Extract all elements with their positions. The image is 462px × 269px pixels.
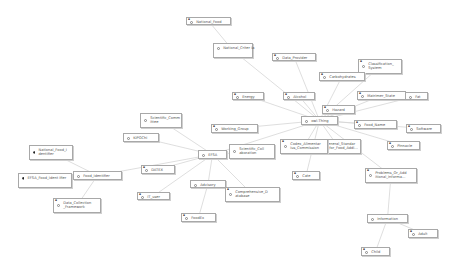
expand-marker-icon: ▪	[410, 230, 412, 233]
class-circle-icon	[190, 21, 193, 24]
expand-marker-icon: ▪	[363, 248, 365, 251]
ontology-graph-canvas[interactable]: ▪ National_Food National_Criter ia ▪ Dat…	[0, 0, 462, 269]
expand-marker-icon: ▪	[213, 125, 215, 128]
expand-marker-icon: ▪	[359, 92, 361, 95]
node-national-food[interactable]: ▪ National_Food	[186, 17, 231, 25]
node-national-criteria[interactable]: National_Criter ia	[213, 43, 253, 58]
node-label: Codex_Alimentar ius_Commission	[290, 142, 330, 151]
class-circle-icon	[323, 76, 326, 79]
node-software[interactable]: ▪ Software	[406, 124, 441, 133]
node-data-provider[interactable]: ▪ Data_Provider	[272, 53, 316, 61]
node-fooddex[interactable]: ▪ FoodEx	[181, 213, 216, 222]
node-label: FoodEx	[191, 216, 204, 220]
edge-national_criteria-owl_thing	[233, 51, 320, 121]
expand-marker-icon: ▪	[360, 60, 362, 63]
node-label: Software	[416, 127, 432, 131]
node-label: Hazard	[332, 108, 345, 112]
node-label: Scientific_Comm ittee	[150, 116, 184, 125]
node-efsa-food-identifier[interactable]: EFSA_Food_Ident ifier	[18, 173, 72, 188]
class-circle-icon	[217, 47, 220, 50]
expand-marker-icon: ▪	[321, 73, 323, 76]
node-label: Adult	[418, 232, 427, 236]
node-child[interactable]: ▪ Child	[361, 247, 390, 256]
node-label: IT_user	[147, 195, 160, 199]
node-pinnacle[interactable]: ▪ Pinnacle	[387, 141, 420, 150]
node-comprehensive-database[interactable]: ▪ Comprehensive_D atabase	[225, 187, 280, 202]
class-circle-icon	[233, 150, 236, 153]
node-label: Food_Name	[364, 123, 385, 127]
class-circle-icon	[361, 95, 364, 98]
node-fat[interactable]: Fat	[405, 92, 428, 100]
class-circle-icon	[409, 96, 412, 99]
node-datex[interactable]: ▪ DATEX	[141, 165, 175, 174]
node-problems[interactable]: ▪ Problems_Or_Add itional_Informa...	[365, 168, 417, 183]
node-label: Alcohol	[293, 95, 306, 99]
node-label: National_Food_I dentifier	[39, 148, 75, 157]
class-circle-icon	[326, 109, 329, 112]
node-codex[interactable]: ▪ Codex_Alimentar ius_Commission	[280, 139, 328, 154]
class-circle-icon	[215, 128, 218, 131]
node-label: Advisory	[200, 183, 215, 187]
graph-edges	[0, 0, 462, 269]
node-scientific-cooperation[interactable]: Scientific_Coll aboration	[229, 144, 275, 159]
edge-it_user-efsa	[154, 155, 213, 197]
class-circle-icon	[185, 217, 188, 220]
node-efsa[interactable]: EFSA	[198, 150, 227, 159]
node-label: Classification_ System	[368, 62, 404, 71]
class-circle-icon	[229, 193, 232, 196]
class-circle-icon	[145, 169, 148, 172]
node-alcohol[interactable]: ▪ Alcohol	[283, 92, 315, 100]
node-owl-thing[interactable]: owl:Thing	[301, 116, 338, 125]
class-circle-icon	[236, 96, 239, 99]
node-scientific-committee[interactable]: Scientific_Comm ittee	[140, 113, 182, 128]
node-label: Food_Identifier	[83, 174, 110, 178]
node-hazard[interactable]: ▪ Hazard	[322, 105, 355, 114]
class-circle-icon	[144, 119, 147, 122]
individual-diamond-icon	[22, 177, 24, 180]
class-circle-icon	[127, 137, 130, 140]
class-circle-icon	[365, 251, 368, 254]
expand-marker-icon: ▪	[274, 54, 276, 57]
node-label: Comprehensive_D atabase	[235, 190, 282, 199]
node-food-name[interactable]: ▪ Food_Name	[354, 120, 397, 129]
node-matrimer-state[interactable]: ▪ Matrimer_State	[357, 91, 406, 100]
class-circle-icon	[412, 233, 415, 236]
class-circle-icon	[305, 120, 308, 123]
node-label: DATEX	[151, 168, 163, 172]
class-circle-icon	[362, 65, 365, 68]
node-label: National_Food	[196, 20, 221, 24]
node-label: Scientific_Coll aboration	[239, 147, 277, 156]
class-circle-icon	[194, 184, 197, 187]
node-working-group[interactable]: ▪ Working_Group	[211, 124, 258, 133]
node-cate[interactable]: ▪ Cate	[292, 171, 320, 180]
node-label: Information	[377, 217, 398, 221]
edge-data_provider-owl_thing	[294, 57, 320, 121]
node-label: Cate	[302, 174, 310, 178]
class-circle-icon	[77, 175, 80, 178]
node-label: Working_Group	[221, 127, 248, 131]
node-information[interactable]: Information	[367, 214, 408, 223]
node-label: EFSA_Food_Ident ifier	[28, 176, 67, 180]
expand-marker-icon: ▪	[367, 169, 369, 172]
node-advisory[interactable]: Advisory	[190, 180, 226, 188]
node-label: owl:Thing	[311, 119, 328, 123]
node-food-identifier[interactable]: Food_Identifier	[73, 171, 122, 180]
expand-marker-icon: ▪	[389, 142, 391, 145]
class-circle-icon	[202, 154, 205, 157]
node-it-user[interactable]: ▪ IT_user	[137, 192, 170, 200]
expand-marker-icon: ▪	[188, 18, 190, 21]
class-circle-icon	[369, 174, 372, 177]
class-circle-icon	[276, 57, 279, 60]
node-carbohydrates[interactable]: ▪ Carbohydrates	[319, 72, 365, 81]
node-label: Pinnacle	[397, 144, 412, 148]
node-label: EFSA	[208, 153, 217, 157]
node-energy[interactable]: ▪ Energy	[232, 92, 264, 100]
node-adult[interactable]: ▪ Adult	[408, 229, 438, 238]
expand-marker-icon: ▪	[294, 172, 296, 175]
expand-marker-icon: ▪	[285, 93, 287, 96]
class-circle-icon	[141, 196, 144, 199]
node-national-food-identifier[interactable]: National_Food_I dentifier	[29, 145, 73, 160]
expand-marker-icon: ▪	[55, 199, 57, 202]
node-data-collection-framework[interactable]: ▪ Data_Collection _Framework	[53, 198, 101, 213]
node-kiproche[interactable]: KIPOChi	[123, 133, 159, 142]
